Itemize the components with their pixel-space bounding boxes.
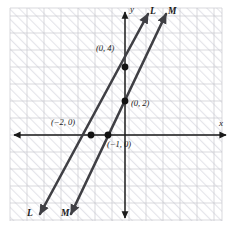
x-axis-label: x — [219, 119, 223, 128]
graph-figure: y x L M L M (0, 4) (0, 2) (−2, 0) (−1, 0… — [0, 0, 235, 230]
line-M-label-top: M — [168, 7, 176, 17]
line-M-label-bottom: M — [61, 209, 69, 219]
grid-background — [10, 8, 222, 221]
point-neg1-0 — [105, 132, 112, 139]
point-label-0-2: (0, 2) — [131, 99, 149, 108]
coordinate-plane-svg — [0, 0, 235, 230]
y-axis-label: y — [130, 5, 134, 14]
point-label-neg1-0: (−1, 0) — [107, 140, 131, 149]
point-0-2 — [122, 98, 129, 105]
point-0-4 — [122, 64, 129, 71]
line-L-label-top: L — [150, 7, 156, 17]
point-neg2-0 — [88, 132, 95, 139]
point-label-0-4: (0, 4) — [96, 44, 114, 53]
point-label-neg2-0: (−2, 0) — [51, 118, 75, 127]
line-L-label-bottom: L — [27, 209, 33, 219]
